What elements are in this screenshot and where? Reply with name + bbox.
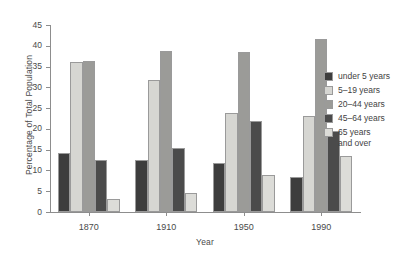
y-tick-mark <box>46 129 50 130</box>
y-tick-mark <box>46 150 50 151</box>
legend-item: 5–19 years <box>324 85 414 96</box>
legend-item: 45–64 years <box>324 113 414 124</box>
bar <box>213 163 225 212</box>
y-tick-label: 20 <box>33 123 42 133</box>
bar <box>303 116 315 212</box>
bar-chart: Percentage of Total Population Year 0510… <box>0 0 414 257</box>
bar <box>135 160 147 212</box>
legend-item-label: 5–19 years <box>338 85 380 96</box>
x-tick-label: 1990 <box>301 222 341 232</box>
x-tick-label: 1870 <box>69 222 109 232</box>
y-tick-mark <box>46 170 50 171</box>
legend-swatch-icon <box>324 114 333 123</box>
x-axis-title: Year <box>45 237 365 247</box>
bar <box>225 113 237 212</box>
bar <box>340 156 352 212</box>
y-tick-label: 45 <box>33 20 42 30</box>
y-tick-label: 5 <box>37 186 42 196</box>
legend-swatch-icon <box>324 86 333 95</box>
y-tick-mark <box>46 212 50 213</box>
legend-item: under 5 years <box>324 71 414 82</box>
bar <box>172 148 184 212</box>
bar <box>238 52 250 212</box>
x-tick-mark <box>244 212 245 216</box>
x-tick-mark <box>89 212 90 216</box>
bar <box>148 80 160 212</box>
legend-item-label: under 5 years <box>338 71 390 82</box>
y-tick-label: 15 <box>33 144 42 154</box>
y-tick-mark <box>46 67 50 68</box>
x-tick-label: 1910 <box>146 222 186 232</box>
bar <box>107 199 119 212</box>
y-tick-mark <box>46 87 50 88</box>
y-tick-mark <box>46 25 50 26</box>
legend-item-label: 45–64 years <box>338 113 385 124</box>
legend-item-label: 65 years and over <box>338 127 371 148</box>
y-tick-label: 40 <box>33 40 42 50</box>
bar <box>58 153 70 212</box>
x-tick-mark <box>321 212 322 216</box>
legend-item: 20–44 years <box>324 99 414 110</box>
y-tick-label: 0 <box>37 207 42 217</box>
legend-item-label: 20–44 years <box>338 99 385 110</box>
plot-area: 051015202530354045 <box>50 25 360 212</box>
legend-swatch-icon <box>324 72 333 81</box>
bar <box>83 61 95 212</box>
y-axis-title: Percentage of Total Population <box>24 25 34 205</box>
legend-swatch-icon <box>324 128 333 137</box>
x-tick-label: 1950 <box>224 222 264 232</box>
y-tick-mark <box>46 191 50 192</box>
legend-swatch-icon <box>324 100 333 109</box>
y-tick-label: 35 <box>33 61 42 71</box>
chart-legend: under 5 years5–19 years20–44 years45–64 … <box>324 71 414 152</box>
legend-item: 65 years and over <box>324 127 414 148</box>
y-tick-label: 10 <box>33 165 42 175</box>
bar <box>290 177 302 212</box>
x-axis-line <box>50 212 361 213</box>
bar <box>160 51 172 212</box>
bar <box>185 193 197 212</box>
bar <box>262 175 274 212</box>
y-tick-label: 30 <box>33 82 42 92</box>
bar <box>250 121 262 212</box>
x-tick-mark <box>166 212 167 216</box>
y-tick-mark <box>46 46 50 47</box>
y-tick-label: 25 <box>33 103 42 113</box>
bar <box>95 160 107 212</box>
bar <box>70 62 82 212</box>
y-tick-mark <box>46 108 50 109</box>
